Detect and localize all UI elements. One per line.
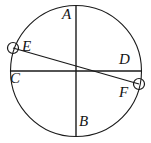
geometry-canvas: [0, 0, 151, 143]
geometry-figure: A B C D E F: [0, 0, 151, 143]
vertex-label-b: B: [79, 114, 88, 129]
vertex-label-e: E: [22, 39, 31, 54]
vertex-label-c: C: [10, 71, 20, 86]
vertex-label-d: D: [119, 52, 130, 67]
vertex-label-f: F: [119, 85, 128, 100]
vertex-label-a: A: [62, 7, 71, 22]
